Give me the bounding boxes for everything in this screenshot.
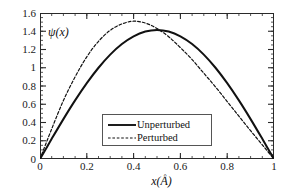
y-tick-label: 1.4	[2, 26, 36, 37]
legend-item-unperturbed: Unperturbed	[107, 118, 207, 131]
y-tick-label: 0.8	[2, 81, 36, 92]
y-tick-label: 0.6	[2, 99, 36, 110]
x-tick-label: 0.8	[212, 161, 242, 172]
x-axis-title-text: x(Å)	[151, 174, 172, 189]
x-axis-title: x(Å)	[0, 174, 289, 189]
x-tick-label: 0.2	[72, 161, 102, 172]
legend-box: Unperturbed Perturbed	[102, 114, 212, 146]
x-tick-label: 0.4	[119, 161, 149, 172]
y-tick-label: 1	[2, 62, 36, 73]
legend-line-dashed-icon	[107, 133, 137, 143]
x-tick-label: 0	[25, 161, 55, 172]
y-tick-label: 1.6	[2, 8, 36, 19]
legend-label-perturbed: Perturbed	[137, 132, 178, 143]
legend-line-solid-icon	[107, 120, 137, 130]
x-tick-label: 0.6	[165, 161, 195, 172]
x-tick-label: 1	[259, 161, 289, 172]
legend-label-unperturbed: Unperturbed	[137, 119, 190, 130]
figure-chart-psi: 00.20.40.60.811.21.41.6 00.20.40.60.81 ψ…	[0, 0, 289, 192]
y-tick-label: 1.2	[2, 44, 36, 55]
legend-item-perturbed: Perturbed	[107, 131, 207, 144]
y-tick-label: 0.4	[2, 117, 36, 128]
y-tick-label: 0.2	[2, 135, 36, 146]
psi-inplot-label: ψ(x)	[48, 25, 69, 40]
